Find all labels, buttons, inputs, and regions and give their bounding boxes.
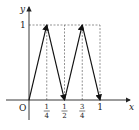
series-segment xyxy=(82,25,100,100)
x-axis-label: x xyxy=(129,102,134,112)
x-tick-denominator: 2 xyxy=(62,112,66,120)
y-tick-label: 1 xyxy=(20,20,26,30)
series-segment xyxy=(65,25,83,100)
x-tick-label: 1 xyxy=(97,102,103,112)
x-tick-numerator: 3 xyxy=(80,103,84,111)
y-axis-label: y xyxy=(19,4,26,14)
x-tick-denominator: 4 xyxy=(80,112,85,120)
labels-group: xyO11412341 xyxy=(19,4,134,120)
guide-lines xyxy=(29,25,100,100)
origin-label: O xyxy=(19,103,26,113)
x-tick-numerator: 1 xyxy=(45,103,49,111)
chart: xyO11412341 xyxy=(0,0,139,130)
x-tick-denominator: 4 xyxy=(45,112,50,120)
x-tick-numerator: 1 xyxy=(62,103,66,111)
series-segment xyxy=(29,25,47,100)
series-segment xyxy=(47,25,65,100)
